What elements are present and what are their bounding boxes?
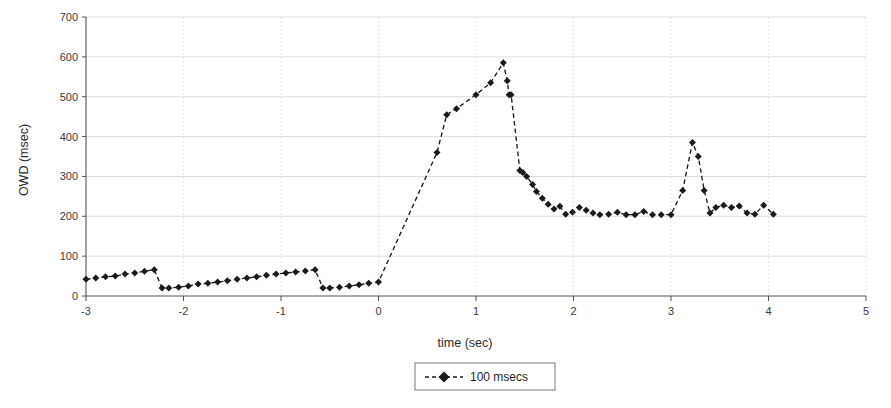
owd-time-line-chart: 0100200300400500600700 -3-2-1012345 time… [0, 0, 891, 408]
x-tick-label: 2 [570, 305, 576, 317]
chart-figure: 0100200300400500600700 -3-2-1012345 time… [0, 0, 891, 408]
x-tick-label: -3 [81, 305, 91, 317]
y-tick-label: 300 [60, 170, 78, 182]
x-tick-label: 3 [668, 305, 674, 317]
legend-box: 100 msecs [415, 363, 555, 390]
x-tick-label: 0 [375, 305, 381, 317]
y-tick-label: 100 [60, 250, 78, 262]
y-tick-label: 0 [72, 290, 78, 302]
x-tick-label: 1 [473, 305, 479, 317]
x-tick-label: 4 [765, 305, 771, 317]
y-tick-label: 600 [60, 51, 78, 63]
x-axis-title: time (sec) [438, 336, 493, 350]
x-tick-label: 5 [863, 305, 869, 317]
y-tick-label: 200 [60, 210, 78, 222]
y-axis-title: OWD (msec) [17, 124, 31, 196]
y-tick-label: 400 [60, 131, 78, 143]
x-tick-label: -1 [276, 305, 286, 317]
y-tick-label: 700 [60, 11, 78, 23]
legend-entry-label: 100 msecs [470, 370, 528, 384]
y-tick-label: 500 [60, 91, 78, 103]
x-tick-label: -2 [179, 305, 189, 317]
